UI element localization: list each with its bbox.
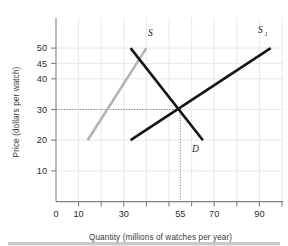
curve-label-demand: D xyxy=(191,144,199,154)
curve-label-supply-original: S xyxy=(148,28,153,38)
supply-demand-chart: 50 45 40 30 20 10 0 10 30 55 70 90 S S 1… xyxy=(0,0,288,246)
curve-label-supply-new: S xyxy=(258,25,263,35)
y-tick-label-20: 20 xyxy=(37,135,47,145)
y-tick-label-10: 10 xyxy=(37,166,47,176)
x-tick-label-10: 10 xyxy=(73,209,83,219)
x-axis-tick-marks xyxy=(79,202,282,207)
y-tick-label-40: 40 xyxy=(37,74,47,84)
x-axis-title: Quantity (millions of watches per year) xyxy=(89,233,232,242)
footer-divider-bar xyxy=(8,242,280,246)
x-tick-label-90: 90 xyxy=(254,209,264,219)
y-axis-title: Price (dollars per watch) xyxy=(12,66,21,157)
y-axis-tick-marks xyxy=(51,48,56,171)
x-tick-label-70: 70 xyxy=(209,209,219,219)
x-tick-label-30: 30 xyxy=(119,209,129,219)
curve-label-supply-new-subscript: 1 xyxy=(265,30,268,37)
equilibrium-guides xyxy=(56,110,180,202)
y-tick-label-50: 50 xyxy=(37,43,47,53)
x-tick-label-55: 55 xyxy=(175,209,185,219)
y-tick-label-30: 30 xyxy=(37,105,47,115)
demand-curve xyxy=(131,48,203,140)
chart-figure: 50 45 40 30 20 10 0 10 30 55 70 90 S S 1… xyxy=(0,0,288,246)
supply-curve-original xyxy=(88,48,147,140)
x-tick-label-0: 0 xyxy=(53,209,58,219)
y-tick-label-45: 45 xyxy=(37,59,47,69)
supply-curve-new xyxy=(131,48,271,140)
